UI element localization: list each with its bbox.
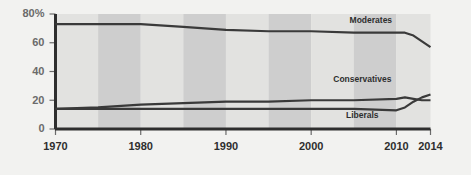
y-tick-label: 20 [32,94,44,106]
political-ideology-trend-chart: 020406080% 197019801990200020102014 Mode… [0,0,471,175]
x-tick-label: 1970 [43,140,67,152]
year-band [56,14,99,129]
y-tick-label: 60 [32,36,44,48]
x-tick-label: 1980 [128,140,152,152]
x-tick-label: 2010 [384,140,408,152]
x-tick-label: 2000 [299,140,323,152]
year-band [141,14,184,129]
year-band [98,14,141,129]
x-tick-label: 1990 [214,140,238,152]
year-band [183,14,226,129]
series-label-liberals: Liberals [346,110,379,120]
series-label-moderates: Moderates [350,15,393,25]
chart-svg: 020406080% 197019801990200020102014 Mode… [0,0,471,175]
series-label-conservatives: Conservatives [333,74,391,84]
year-band [396,14,430,129]
y-tick-label: 80% [22,7,44,19]
x-tick-label: 2014 [418,140,443,152]
y-tick-label: 40 [32,65,44,77]
y-tick-label: 0 [38,122,44,134]
